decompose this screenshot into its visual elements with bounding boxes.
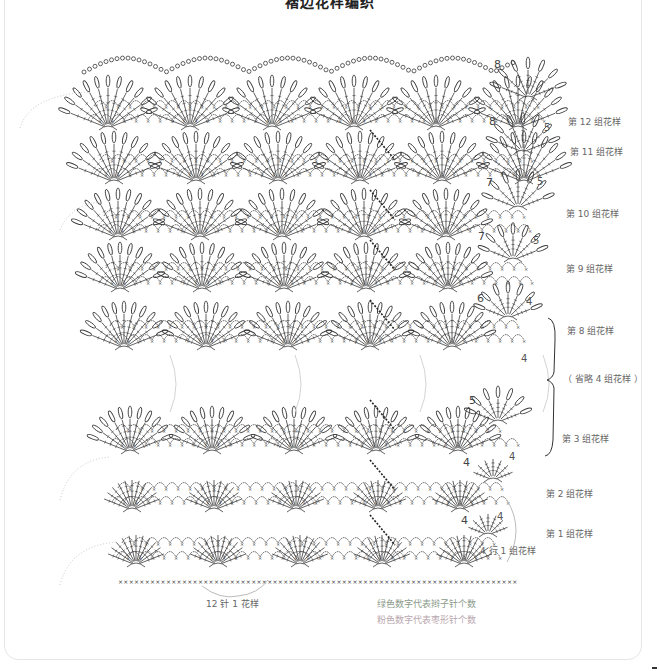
- fan-motif: [222, 75, 322, 130]
- picot: [291, 56, 295, 60]
- picot: [121, 56, 125, 60]
- picot: [308, 60, 312, 64]
- picot: [330, 69, 334, 73]
- sc-mark: ×: [158, 280, 162, 286]
- picot: [506, 63, 510, 67]
- picot: [258, 64, 262, 68]
- picot: [434, 59, 438, 63]
- picot: [231, 62, 235, 66]
- picot: [385, 58, 389, 62]
- picot: [93, 64, 97, 68]
- fan-motif: [350, 480, 406, 512]
- sc-mark: ×: [296, 266, 300, 272]
- fan-motif: [473, 459, 512, 482]
- sc-mark: ×: [186, 555, 190, 561]
- chain-count-number: 7: [478, 230, 485, 243]
- sc-mark: ×: [228, 228, 232, 234]
- sc-mark: ×: [144, 228, 148, 234]
- sc-mark: ×: [504, 442, 508, 448]
- guide-arc: [60, 457, 110, 500]
- sc-mark: ×: [476, 172, 480, 178]
- gap-guide: [420, 355, 426, 412]
- picot: [220, 58, 224, 62]
- sc-mark: ×: [228, 324, 232, 330]
- sc-mark: ×: [516, 228, 520, 234]
- sc-mark: ×: [512, 266, 516, 272]
- chain-count-number: 4: [461, 514, 468, 527]
- fan-motif: [190, 535, 246, 567]
- sc-mark: ×: [522, 214, 526, 220]
- picot: [269, 59, 273, 63]
- picot: [99, 62, 103, 66]
- picot: [181, 62, 185, 66]
- sc-mark: ×: [218, 118, 222, 124]
- sc-mark: ×: [500, 266, 504, 272]
- picot: [137, 58, 141, 62]
- sc-mark: ×: [260, 486, 264, 492]
- fan-motif: [58, 75, 158, 130]
- sc-mark: ×: [162, 338, 166, 344]
- picot: [319, 65, 323, 69]
- sc-mark: ×: [300, 324, 304, 330]
- sc-mark: ×: [164, 172, 168, 178]
- sc-mark: ×: [246, 338, 250, 344]
- sc-mark: ×: [212, 104, 216, 110]
- sc-mark: ×: [174, 555, 178, 561]
- sc-mark: ×: [168, 442, 172, 448]
- picot: [170, 67, 174, 71]
- guide-arc: [60, 202, 100, 230]
- sc-mark: ×: [482, 280, 486, 286]
- picot: [154, 65, 158, 69]
- sc-mark: ×: [146, 280, 150, 286]
- sc-mark: ×: [422, 500, 426, 506]
- sc-mark: ×: [276, 541, 280, 547]
- sc-mark: ×: [278, 158, 282, 164]
- picot: [242, 68, 246, 72]
- sc-mark: ×: [498, 338, 502, 344]
- sc-mark: ×: [410, 280, 414, 286]
- sc-mark: ×: [248, 172, 252, 178]
- picot: [396, 63, 400, 67]
- sc-mark: ×: [252, 228, 256, 234]
- sc-mark: ×: [174, 214, 178, 220]
- sc-mark: ×: [308, 266, 312, 272]
- row-label: 第 3 组花样: [562, 432, 609, 445]
- picot: [214, 57, 218, 61]
- picot: [209, 56, 213, 60]
- sc-mark: ×: [116, 266, 120, 272]
- sc-mark: ×: [410, 500, 414, 506]
- sc-mark: ×: [398, 118, 402, 124]
- picot: [192, 58, 196, 62]
- chain-count-number: 4: [463, 456, 470, 469]
- sc-mark: ×: [146, 118, 150, 124]
- sc-mark: ×: [284, 266, 288, 272]
- sc-mark: ×: [336, 228, 340, 234]
- sc-mark: ×: [252, 541, 256, 547]
- cluster-count-number: 5: [537, 176, 543, 187]
- sc-mark: ×: [498, 428, 502, 434]
- sc-mark: ×: [188, 486, 192, 492]
- sc-mark: ×: [336, 442, 340, 448]
- picot: [115, 57, 119, 61]
- sc-mark: ×: [308, 172, 312, 178]
- sc-mark: ×: [404, 172, 408, 178]
- picot: [341, 64, 345, 68]
- picot: [264, 61, 268, 65]
- picot: [302, 58, 306, 62]
- sc-mark: ×: [170, 500, 174, 506]
- picot: [412, 69, 416, 73]
- picot: [297, 57, 301, 61]
- corner-mark: [652, 667, 657, 669]
- sc-mark: ×: [312, 324, 316, 330]
- sc-mark: ×: [330, 338, 334, 344]
- sc-mark: ×: [168, 228, 172, 234]
- picot: [423, 63, 427, 67]
- sc-mark: ×: [264, 442, 268, 448]
- sc-mark: ×: [156, 541, 160, 547]
- sc-mark: ×: [504, 324, 508, 330]
- join-marker: [370, 190, 395, 220]
- picot: [346, 61, 350, 65]
- sc-mark: ×: [266, 500, 270, 506]
- sc-mark: ×: [248, 486, 252, 492]
- sc-mark: ×: [222, 214, 226, 220]
